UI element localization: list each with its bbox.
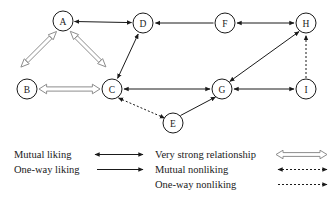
node-H[interactable]: H xyxy=(296,13,316,33)
node-D-label: D xyxy=(140,19,147,29)
legend-item-one-way-nonliking: One-way nonliking xyxy=(155,179,327,190)
legend-item-very-strong-relationship: Very strong relationship xyxy=(155,149,327,160)
node-C-label: C xyxy=(109,85,115,95)
edge-B-C-very-strong-relationship xyxy=(39,84,100,94)
node-G[interactable]: G xyxy=(212,79,232,99)
legend-label-very-strong-relationship: Very strong relationship xyxy=(155,149,256,160)
sociogram-diagram: A B C D E F G xyxy=(0,0,334,199)
node-A[interactable]: A xyxy=(53,11,73,31)
node-layer: A B C D E F G xyxy=(17,11,316,133)
edge-A-C-very-strong-relationship xyxy=(70,31,106,67)
legend-item-one-way-liking: One-way liking xyxy=(14,164,143,175)
node-F-label: F xyxy=(222,19,227,29)
node-E-label: E xyxy=(170,119,176,129)
node-B-label: B xyxy=(24,85,30,95)
node-A-label: A xyxy=(60,17,67,27)
node-I[interactable]: I xyxy=(296,79,316,99)
legend-item-mutual-nonliking: Mutual nonliking xyxy=(155,164,327,175)
node-C[interactable]: C xyxy=(102,79,122,99)
node-I-label: I xyxy=(304,85,307,95)
node-G-label: G xyxy=(219,85,226,95)
node-B[interactable]: B xyxy=(17,79,37,99)
node-E[interactable]: E xyxy=(163,113,183,133)
edge-G-H-mutual-liking xyxy=(230,32,299,82)
edge-C-D-mutual-liking xyxy=(118,34,139,78)
node-D[interactable]: D xyxy=(133,13,153,33)
legend: Mutual liking One-way liking Very strong… xyxy=(14,149,327,190)
legend-item-mutual-liking: Mutual liking xyxy=(14,149,143,160)
edge-A-D-mutual-liking xyxy=(75,22,132,23)
diagram-canvas: A B C D E F G xyxy=(0,0,334,199)
node-F[interactable]: F xyxy=(215,13,235,33)
node-H-label: H xyxy=(303,19,310,29)
legend-label-mutual-liking: Mutual liking xyxy=(14,149,72,160)
legend-label-one-way-nonliking: One-way nonliking xyxy=(155,179,237,190)
edge-E-G-one-way-liking xyxy=(181,97,216,116)
edge-layer xyxy=(21,22,306,119)
legend-label-mutual-nonliking: Mutual nonliking xyxy=(155,164,229,175)
double-headed-block-arrow-icon xyxy=(276,150,327,159)
edge-C-E-mutual-nonliking xyxy=(119,98,165,118)
edge-A-B-very-strong-relationship xyxy=(21,32,57,68)
legend-label-one-way-liking: One-way liking xyxy=(14,164,80,175)
